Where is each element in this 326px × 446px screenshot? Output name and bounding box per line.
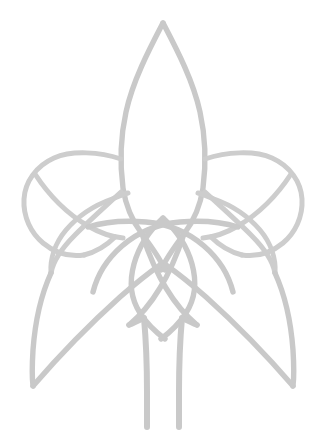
tail-left — [144, 318, 147, 427]
right-triquetra-inner-link — [211, 237, 242, 255]
artboard: Celtic Knotwork Emblem Symmetric Celtic … — [0, 0, 326, 446]
celtic-knot-emblem — [0, 0, 326, 446]
left-triquetra-inner-link — [84, 237, 115, 255]
tail-right — [179, 318, 182, 427]
